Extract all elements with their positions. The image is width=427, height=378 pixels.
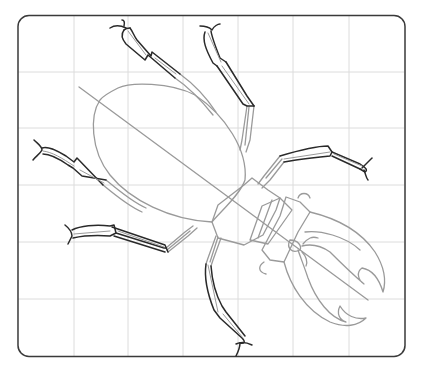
- leg-top-right: [200, 24, 254, 106]
- leg-left-upper: [33, 140, 106, 185]
- leg-top-left: [110, 20, 180, 78]
- beetle-legs: [33, 20, 372, 356]
- leg-right-middle: [280, 146, 372, 180]
- beetle-body-guides: [79, 84, 384, 325]
- beetle-drawing-canvas: [0, 0, 427, 378]
- leg-bottom: [205, 264, 252, 356]
- leg-left-lower: [65, 225, 168, 252]
- drawing-grid: [18, 16, 404, 356]
